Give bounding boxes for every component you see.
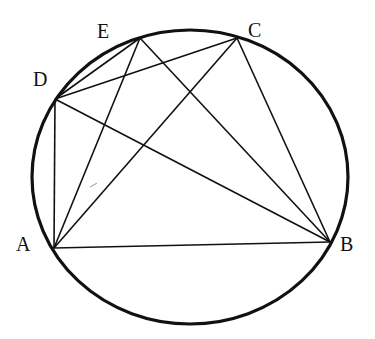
geometry-diagram: A B C D E <box>0 0 375 339</box>
segment-ad <box>54 99 55 248</box>
label-a: A <box>16 233 31 255</box>
label-d: D <box>33 68 47 90</box>
label-b: B <box>340 233 353 255</box>
segment-eb <box>140 38 330 242</box>
segment-ab <box>54 242 330 248</box>
stray-mark <box>90 183 97 187</box>
label-c: C <box>248 19 261 41</box>
label-e: E <box>97 20 109 42</box>
segment-cb <box>237 38 330 242</box>
point-labels: A B C D E <box>16 19 353 255</box>
chord-segments <box>54 38 330 248</box>
segment-db <box>55 99 330 242</box>
